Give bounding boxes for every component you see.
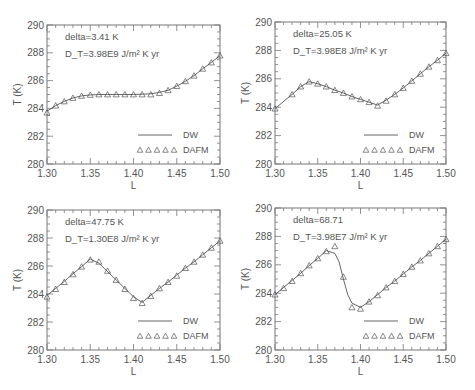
annotation-text: D_T=3.98E7 J/m² K yr [293, 231, 387, 242]
y-tick-label: 286 [255, 259, 272, 270]
x-tick-label: 1.50 [210, 168, 230, 179]
y-tick-label: 282 [255, 130, 272, 141]
y-tick-label: 288 [27, 233, 44, 244]
x-tick-label: 1.50 [436, 168, 456, 179]
x-tick-label: 1.35 [308, 168, 328, 179]
legend-label-dafm: DAFM [409, 145, 435, 155]
annotation-text: delta=25.05 K [293, 28, 353, 39]
series-line-dw [275, 239, 446, 307]
legend-triangle-sample [363, 333, 369, 338]
plot-frame [275, 22, 446, 164]
plot-frame [47, 210, 220, 350]
x-tick-label: 1.35 [81, 354, 101, 365]
y-axis-label: T (K) [240, 268, 251, 290]
x-tick-label: 1.40 [124, 354, 144, 365]
y-tick-label: 286 [27, 75, 44, 86]
data-point-dafm [332, 243, 338, 248]
annotation-text: D_T=3.98E9 J/m² K yr [65, 48, 159, 59]
y-tick-label: 286 [27, 261, 44, 272]
y-tick-label: 282 [255, 316, 272, 327]
legend-label-dw: DW [183, 130, 198, 140]
data-point-dafm [349, 304, 355, 309]
legend-triangle-sample [154, 333, 160, 338]
legend-triangle-sample [372, 333, 378, 338]
x-tick-label: 1.45 [167, 168, 187, 179]
plot-frame [275, 208, 446, 350]
legend-triangle-sample [397, 147, 403, 152]
y-axis-label: T (K) [240, 82, 251, 104]
x-tick-label: 1.45 [394, 354, 414, 365]
y-axis-label: T (K) [12, 83, 23, 105]
annotation-text: delta=47.75 K [65, 216, 125, 227]
x-axis-label: L [358, 180, 364, 191]
y-tick-label: 282 [27, 131, 44, 142]
series-line-dw [47, 56, 220, 112]
legend-triangle-sample [163, 333, 169, 338]
legend-triangle-sample [146, 333, 152, 338]
y-tick-label: 288 [255, 231, 272, 242]
x-tick-label: 1.45 [167, 354, 187, 365]
legend-triangle-sample [137, 147, 143, 152]
legend-label-dw: DW [409, 130, 424, 140]
legend-triangle-sample [163, 147, 169, 152]
legend-triangle-sample [137, 333, 143, 338]
panel-bottom-left: 2802822842862882901.301.351.401.451.50LT… [12, 205, 230, 378]
x-axis-label: L [131, 180, 137, 191]
x-axis-label: L [358, 366, 364, 377]
y-tick-label: 284 [255, 102, 272, 113]
y-tick-label: 288 [255, 45, 272, 56]
y-tick-label: 288 [27, 47, 44, 58]
y-tick-label: 290 [27, 205, 44, 216]
legend-triangle-sample [363, 147, 369, 152]
legend-triangle-sample [389, 147, 395, 152]
panel-top-right: 2802822842862882901.301.351.401.451.50LT… [240, 17, 456, 192]
legend-triangle-sample [154, 147, 160, 152]
legend-label-dafm: DAFM [183, 145, 209, 155]
legend-label-dafm: DAFM [183, 331, 209, 341]
annotation-text: D_T=3.98E8 J/m² K yr [293, 45, 387, 56]
x-tick-label: 1.30 [265, 354, 285, 365]
x-tick-label: 1.35 [308, 354, 328, 365]
legend-triangle-sample [171, 333, 177, 338]
panel-top-left: 2802822842862882901.301.351.401.451.50LT… [12, 20, 230, 192]
figure: 2802822842862882901.301.351.401.451.50LT… [0, 0, 475, 390]
panel-bottom-right: 2802822842862882901.301.351.401.451.50LT… [240, 203, 456, 378]
x-tick-label: 1.30 [37, 168, 57, 179]
annotation-text: delta=3.41 K [65, 31, 119, 42]
x-tick-label: 1.30 [37, 354, 57, 365]
x-tick-label: 1.50 [210, 354, 230, 365]
x-tick-label: 1.35 [81, 168, 101, 179]
legend-triangle-sample [380, 147, 386, 152]
annotation-text: D_T=1.30E8 J/m² K yr [65, 233, 159, 244]
x-tick-label: 1.40 [124, 168, 144, 179]
legend-triangle-sample [372, 147, 378, 152]
legend-triangle-sample [389, 333, 395, 338]
y-tick-label: 284 [27, 103, 44, 114]
y-tick-label: 282 [27, 317, 44, 328]
x-tick-label: 1.40 [351, 168, 371, 179]
x-tick-label: 1.45 [394, 168, 414, 179]
annotation-text: delta=68.71 [293, 214, 343, 225]
legend-triangle-sample [146, 147, 152, 152]
x-tick-label: 1.30 [265, 168, 285, 179]
legend-label-dafm: DAFM [409, 331, 435, 341]
y-tick-label: 290 [27, 20, 44, 31]
y-axis-label: T (K) [12, 269, 23, 291]
y-tick-label: 290 [255, 203, 272, 214]
data-point-dafm [105, 268, 111, 273]
y-tick-label: 284 [27, 289, 44, 300]
legend-label-dw: DW [409, 316, 424, 326]
y-tick-label: 290 [255, 17, 272, 28]
x-axis-label: L [131, 366, 137, 377]
series-line-dw [275, 53, 446, 108]
legend-triangle-sample [171, 147, 177, 152]
legend-label-dw: DW [183, 316, 198, 326]
x-tick-label: 1.50 [436, 354, 456, 365]
x-tick-label: 1.40 [351, 354, 371, 365]
legend-triangle-sample [380, 333, 386, 338]
y-tick-label: 284 [255, 288, 272, 299]
legend-triangle-sample [397, 333, 403, 338]
y-tick-label: 286 [255, 73, 272, 84]
